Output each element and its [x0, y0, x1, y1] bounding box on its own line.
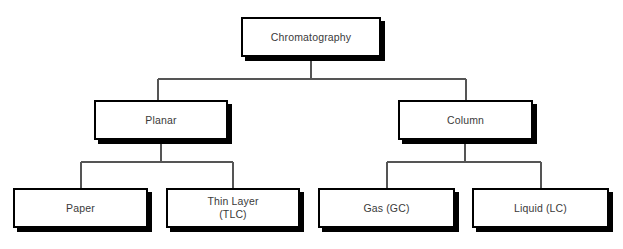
node-liquid[interactable]: Liquid (LC): [472, 188, 609, 228]
node-chromatography[interactable]: Chromatography: [241, 17, 381, 57]
node-gas-label: Gas (GC): [363, 202, 409, 215]
node-paper[interactable]: Paper: [13, 188, 148, 228]
node-gas[interactable]: Gas (GC): [318, 188, 455, 228]
node-column[interactable]: Column: [398, 100, 533, 140]
node-chromatography-label: Chromatography: [271, 31, 351, 44]
node-thin-layer[interactable]: Thin Layer (TLC): [166, 188, 300, 228]
node-planar[interactable]: Planar: [94, 100, 228, 140]
node-liquid-label: Liquid (LC): [514, 202, 567, 215]
node-planar-label: Planar: [145, 114, 176, 127]
node-column-label: Column: [447, 114, 484, 127]
node-thin-layer-label: Thin Layer (TLC): [207, 195, 258, 221]
chromatography-diagram: Chromatography Planar Column Paper Thin …: [0, 0, 623, 249]
node-paper-label: Paper: [66, 202, 95, 215]
